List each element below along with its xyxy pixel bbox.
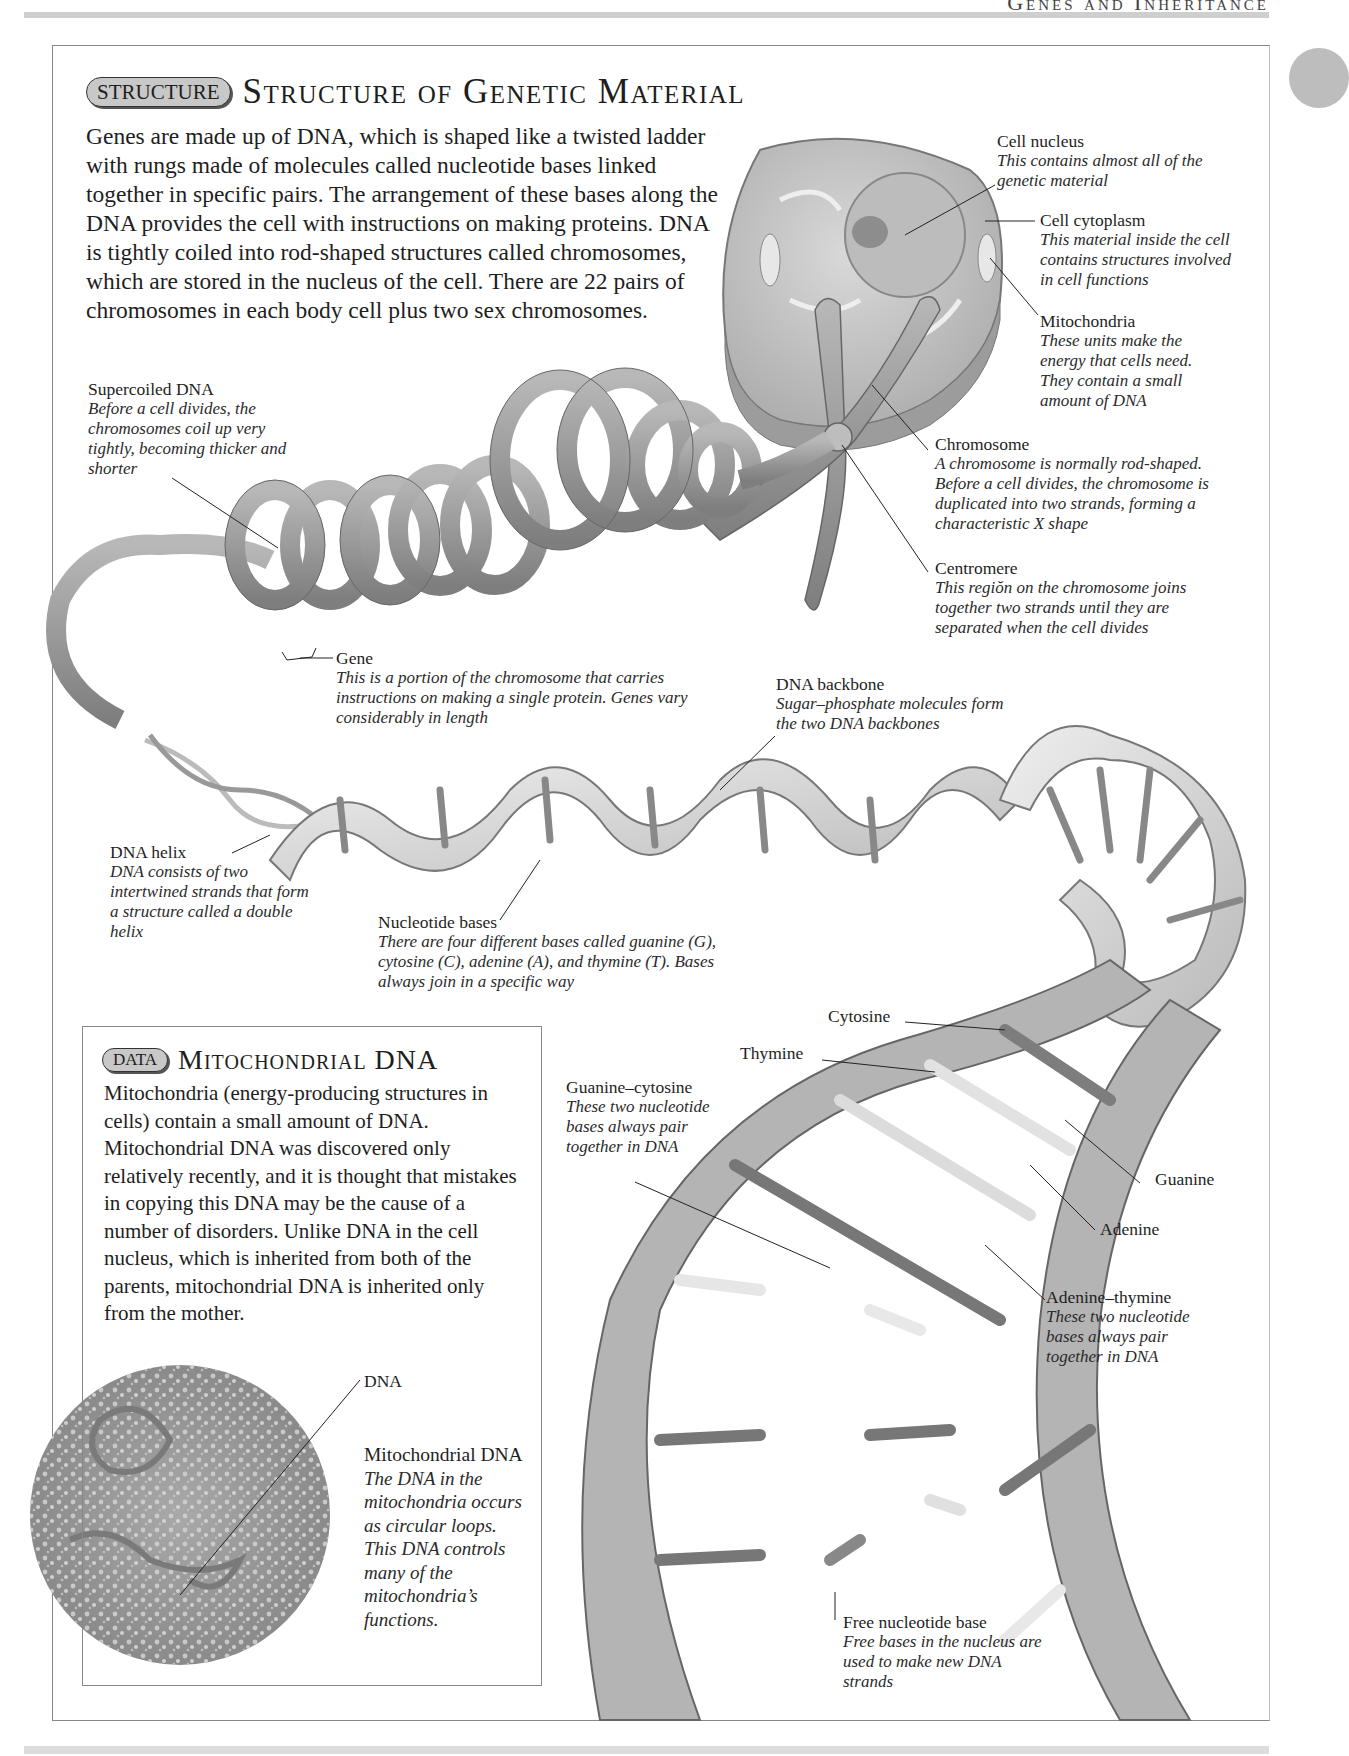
double-helix-icon [145,735,330,830]
callout-dna-backbone: DNA backbone Sugar–phosphate molecules f… [776,674,1016,734]
callout-title: Centromere [935,558,1235,578]
callout-title: Mitochondria [1040,311,1225,331]
callout-desc: There are four different bases called gu… [378,932,738,992]
callout-title: Nucleotide bases [378,912,738,932]
callout-title: DNA backbone [776,674,1016,694]
callout-title: DNA helix [110,842,310,862]
micrograph-dna-label: DNA [364,1371,402,1391]
callout-nucleotide-bases: Nucleotide bases There are four differen… [378,912,738,992]
callout-dna-helix: DNA helix DNA consists of two intertwine… [110,842,310,942]
callout-thymine: Thymine [740,1043,803,1063]
callout-title: Cell cytoplasm [1040,210,1240,230]
callout-desc: DNA consists of two intertwined strands … [110,862,310,942]
callout-desc: This is a portion of the chromosome that… [336,668,726,728]
callout-desc: This contains almost all of the genetic … [997,151,1227,191]
callout-desc: A chromosome is normally rod-shaped. Bef… [935,454,1245,534]
callout-title: Cytosine [828,1006,890,1026]
data-heading: DATA Mitochondrial DNA [102,1044,438,1076]
data-paragraph: Mitochondria (energy-producing structure… [104,1080,529,1328]
callout-chromosome: Chromosome A chromosome is normally rod-… [935,434,1245,534]
callout-desc: Free bases in the nucleus are used to ma… [843,1632,1043,1692]
callout-guanine-cytosine: Guanine–cytosine These two nucleotide ba… [566,1077,726,1157]
micrograph-caption: Mitochondrial DNA The DNA in the mitocho… [364,1443,529,1631]
callout-desc: These two nucleotide bases always pair t… [566,1097,726,1157]
callout-adenine-thymine: Adenine–thymine These two nucleotide bas… [1046,1287,1226,1367]
callout-desc: These two nucleotide bases always pair t… [1046,1307,1226,1367]
callout-cytosine: Cytosine [828,1006,890,1026]
callout-supercoiled-dna: Supercoiled DNA Before a cell divides, t… [88,379,288,479]
callout-guanine: Guanine [1155,1169,1214,1189]
callout-title: Gene [336,648,726,668]
callout-title: Chromosome [935,434,1245,454]
callout-centromere: Centromere This regiŏn on the chromosome… [935,558,1235,638]
callout-title: Guanine [1155,1169,1214,1189]
callout-title: Adenine–thymine [1046,1287,1226,1307]
data-badge: DATA [102,1048,168,1072]
callout-title: Adenine [1100,1219,1159,1239]
section-title: Structure of Genetic Material [243,72,746,112]
data-title: Mitochondrial DNA [178,1044,438,1076]
callout-gene: Gene This is a portion of the chromosome… [336,648,726,728]
caption-desc: The DNA in the mitochondria occurs as ci… [364,1467,529,1632]
callout-desc: This regiŏn on the chromosome joins toge… [935,578,1235,638]
callout-title: Cell nucleus [997,131,1227,151]
callout-adenine: Adenine [1100,1219,1159,1239]
callout-desc: Sugar–phosphate molecules form the two D… [776,694,1016,734]
callout-title: Supercoiled DNA [88,379,288,399]
callout-title: Guanine–cytosine [566,1077,726,1097]
callout-free-nucleotide-base: Free nucleotide base Free bases in the n… [843,1612,1043,1692]
callout-mitochondria: Mitochondria These units make the energy… [1040,311,1225,411]
structure-badge: STRUCTURE [86,77,231,107]
callout-title: Free nucleotide base [843,1612,1043,1632]
intro-paragraph: Genes are made up of DNA, which is shape… [86,122,726,325]
callout-desc: This material inside the cell contains s… [1040,230,1240,290]
callout-desc: These units make the energy that cells n… [1040,331,1225,411]
callout-desc: Before a cell divides, the chromosomes c… [88,399,288,479]
section-heading: STRUCTURE Structure of Genetic Material [86,72,745,112]
callout-title: Thymine [740,1043,803,1063]
callout-cell-nucleus: Cell nucleus This contains almost all of… [997,131,1227,191]
callout-cell-cytoplasm: Cell cytoplasm This material inside the … [1040,210,1240,290]
caption-title: Mitochondrial DNA [364,1443,529,1467]
